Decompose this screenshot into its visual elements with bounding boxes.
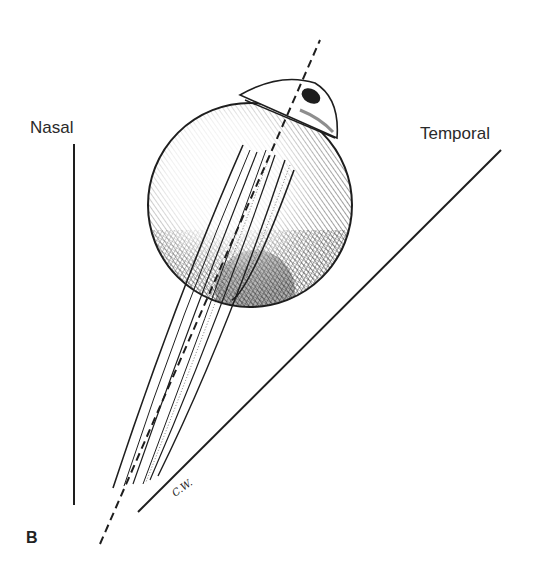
nasal-label: Nasal — [30, 119, 73, 136]
temporal-label: Temporal — [420, 125, 490, 142]
artist-signature: C.W. — [170, 477, 194, 499]
eye-illustration: C.W. — [0, 0, 534, 570]
eyeball-globe — [140, 103, 360, 330]
panel-label: B — [26, 529, 38, 547]
